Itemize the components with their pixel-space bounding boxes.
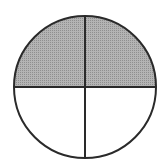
fraction-circle-svg [0,0,163,166]
fraction-circle-diagram [0,0,163,166]
